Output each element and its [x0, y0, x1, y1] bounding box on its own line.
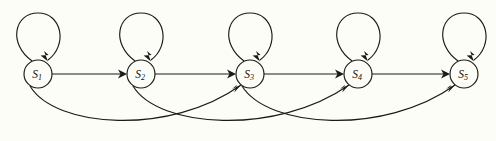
arc-edge-s3-s5[interactable]	[242, 85, 455, 120]
self-loop-s5-arrowhead	[467, 51, 475, 62]
state-node-s1-label-sub: 1	[38, 73, 42, 82]
arc-edge-group	[30, 85, 455, 120]
self-loop-s5-path	[443, 13, 486, 61]
self-loop-s1[interactable]	[17, 13, 60, 62]
state-node-s2-label-sub: 2	[141, 73, 145, 82]
state-node-s3[interactable]: S3	[236, 60, 264, 88]
state-node-s4[interactable]: S4	[344, 60, 372, 88]
state-node-s5[interactable]: S5	[450, 60, 478, 88]
arc-edge-s1-s3-arrowhead	[232, 85, 241, 93]
edge-s3-s4[interactable]	[264, 69, 344, 78]
self-loop-s2-path	[120, 13, 163, 61]
self-loop-s2-arrowhead	[144, 51, 152, 62]
state-node-s4-label-sub: 4	[358, 73, 362, 82]
state-node-s2[interactable]: S2	[127, 60, 155, 88]
self-loop-s4-arrowhead	[361, 51, 369, 62]
arc-edge-s3-s5-arrowhead	[446, 85, 455, 93]
state-node-s3-label-sub: 3	[249, 73, 254, 82]
state-node-s5-label-sub: 5	[464, 73, 468, 82]
edge-s2-s3[interactable]	[155, 69, 236, 78]
self-loop-s4-path	[337, 13, 380, 61]
self-loop-s3-path	[229, 13, 272, 61]
state-diagram: S1 S2 S3 S4	[0, 0, 496, 141]
arc-edge-s2-s4-path	[133, 85, 349, 120]
arc-edge-s3-s5-path	[242, 85, 455, 120]
edge-s4-s5[interactable]	[372, 69, 450, 78]
state-diagram-canvas: S1 S2 S3 S4	[0, 0, 496, 141]
state-node-s1[interactable]: S1	[24, 60, 52, 88]
arc-edge-s2-s4[interactable]	[133, 85, 349, 120]
self-loop-s2[interactable]	[120, 13, 163, 62]
self-loop-s1-path	[17, 13, 60, 61]
edge-s1-s2[interactable]	[52, 69, 127, 78]
self-loop-group	[17, 13, 486, 62]
self-loop-s3[interactable]	[229, 13, 272, 62]
self-loop-s4[interactable]	[337, 13, 380, 62]
arc-edge-s2-s4-arrowhead	[340, 85, 349, 93]
self-loop-s3-arrowhead	[253, 51, 261, 62]
self-loop-s1-arrowhead	[41, 51, 49, 62]
self-loop-s5[interactable]	[443, 13, 486, 62]
